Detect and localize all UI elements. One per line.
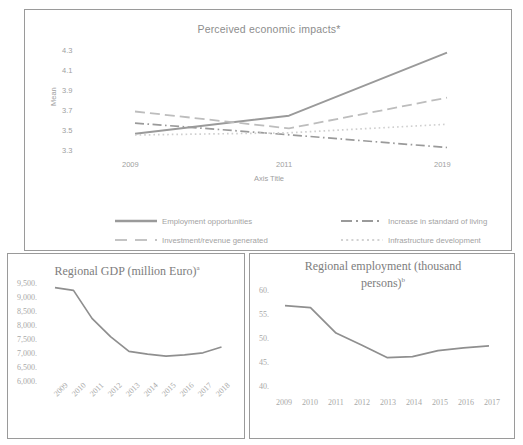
employment-xtick-1: 2010: [302, 398, 318, 407]
series-regional-employment: [285, 306, 489, 358]
top-ytick-4: 3.5: [62, 126, 72, 135]
top-chart-legend: Employment opportunities Increase in sta…: [115, 215, 515, 251]
employment-xtick-5: 2014: [406, 398, 422, 407]
legend-label-infrastructure-development: Infrastructure development: [388, 236, 481, 245]
employment-xtick-6: 2015: [432, 398, 448, 407]
gdp-title-superscript: a: [196, 264, 199, 272]
employment-ytick-2: 50.: [259, 334, 269, 343]
legend-key-dotted: [341, 235, 383, 245]
gdp-chart-title-text: Regional GDP (million Euro): [55, 264, 197, 278]
gdp-xtick-8: 2017: [196, 381, 214, 399]
employment-xtick-8: 2017: [484, 398, 500, 407]
regional-gdp-panel: Regional GDP (million Euro)a 9,500. 9,00…: [7, 253, 245, 439]
legend-label-increase-standard-of-living: Increase in standard of living: [388, 217, 487, 226]
gdp-ytick-3: 8,000.: [17, 321, 37, 330]
top-xtick-2: 2019: [434, 160, 451, 169]
legend-item-employment-opportunities[interactable]: Employment opportunities: [115, 215, 252, 227]
gdp-ytick-5: 7,000.: [17, 349, 37, 358]
gdp-xtick-2: 2011: [88, 381, 105, 398]
legend-key-solid: [115, 216, 157, 226]
gdp-xtick-0: 2009: [52, 381, 70, 399]
legend-key-dashdot: [341, 216, 383, 226]
top-xtick-0: 2009: [122, 160, 139, 169]
gdp-xtick-5: 2014: [142, 381, 160, 399]
employment-ytick-1: 55.: [259, 310, 269, 319]
employment-chart-title-line2: persons): [361, 276, 402, 290]
regional-employment-panel: Regional employment (thousand persons)b …: [249, 253, 515, 439]
gdp-xtick-7: 2016: [178, 381, 196, 399]
top-chart-plot: [77, 49, 497, 155]
top-ytick-1: 4.1: [62, 66, 72, 75]
gdp-xtick-6: 2015: [160, 381, 178, 399]
gdp-xtick-9: 2018: [214, 381, 232, 399]
top-ytick-5: 3.3: [62, 146, 72, 155]
gdp-ytick-7: 6,000.: [17, 377, 37, 386]
employment-xtick-4: 2013: [380, 398, 396, 407]
gdp-ytick-6: 6,500.: [17, 363, 37, 372]
gdp-xtick-3: 2012: [106, 381, 124, 399]
gdp-xtick-4: 2013: [124, 381, 142, 399]
figure-page: Perceived economic impacts* 4.3 4.1 3.9 …: [0, 0, 523, 445]
employment-xtick-3: 2012: [354, 398, 370, 407]
gdp-xtick-1: 2010: [70, 381, 88, 399]
employment-chart-plot: [280, 289, 502, 387]
top-ytick-0: 4.3: [62, 46, 72, 55]
legend-item-investment-revenue-generated[interactable]: Investment/revenue generated: [115, 234, 268, 246]
gdp-ytick-2: 8,500.: [17, 307, 37, 316]
series-regional-gdp: [55, 288, 222, 357]
employment-ytick-3: 45.: [259, 358, 269, 367]
gdp-ytick-0: 9,500.: [17, 279, 37, 288]
employment-xtick-2: 2011: [328, 398, 344, 407]
legend-label-employment-opportunities: Employment opportunities: [162, 217, 252, 226]
gdp-chart-plot: [52, 282, 230, 380]
perceived-impacts-panel: Perceived economic impacts* 4.3 4.1 3.9 …: [24, 9, 512, 251]
employment-xtick-0: 2009: [276, 398, 292, 407]
employment-ytick-4: 40.: [259, 382, 269, 391]
legend-item-infrastructure-development[interactable]: Infrastructure development: [341, 234, 481, 246]
top-y-axis-title: Mean: [49, 87, 58, 106]
top-x-axis-title: Axis Title: [25, 174, 513, 183]
legend-label-investment-revenue-generated: Investment/revenue generated: [162, 236, 268, 245]
legend-key-dashed: [115, 235, 157, 245]
top-ytick-3: 3.7: [62, 106, 72, 115]
employment-chart-title-line1: Regional employment (thousand: [305, 259, 462, 273]
top-xtick-1: 2011: [276, 160, 292, 169]
legend-item-increase-standard-of-living[interactable]: Increase in standard of living: [341, 215, 487, 227]
gdp-chart-title: Regional GDP (million Euro)a: [8, 261, 246, 278]
employment-title-superscript: b: [402, 276, 406, 284]
employment-chart-title: Regional employment (thousand persons)b: [268, 259, 498, 290]
series-infrastructure-development: [135, 124, 447, 135]
gdp-ytick-4: 7,500.: [17, 335, 37, 344]
employment-xtick-7: 2016: [458, 398, 474, 407]
top-chart-title: Perceived economic impacts*: [25, 23, 513, 35]
series-employment-opportunities: [135, 53, 447, 134]
top-ytick-2: 3.9: [62, 86, 72, 95]
series-increase-standard-of-living: [135, 123, 447, 147]
employment-ytick-0: 60.: [259, 286, 269, 295]
series-investment-revenue-generated: [135, 98, 447, 129]
gdp-ytick-1: 9,000.: [17, 293, 37, 302]
